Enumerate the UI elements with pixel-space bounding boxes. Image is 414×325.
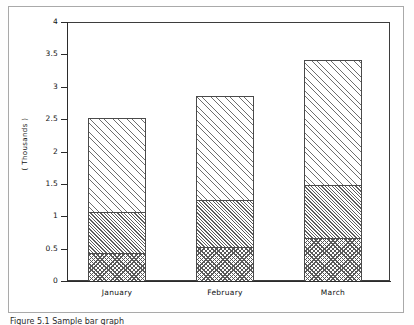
bar-segment-series2 (304, 185, 362, 238)
bar-segment-series3 (88, 118, 146, 213)
bar-chart-figure: 0 0.5 1 1.5 2 2.5 3 3.5 4 ( Thousands ) (0, 0, 414, 325)
y-axis-title: ( Thousands ) (21, 99, 29, 189)
y-tick-mark (61, 281, 67, 282)
y-tick-label: 1.5 (45, 180, 58, 188)
bar-segment-series1 (196, 247, 254, 281)
y-tick-mark (61, 119, 67, 120)
bar-segment-series2 (196, 200, 254, 247)
figure-caption: Figure 5.1 Sample bar graph (10, 317, 124, 325)
y-tick-label: 1 (53, 212, 58, 220)
bar-segment-series1 (88, 253, 146, 281)
y-tick-mark (61, 249, 67, 250)
y-tick-label: 3.5 (45, 50, 58, 58)
y-tick-mark (61, 184, 67, 185)
bar-march (304, 60, 362, 281)
bar-january (88, 118, 146, 281)
y-axis-line (67, 22, 68, 282)
x-axis-label-february: February (196, 288, 254, 297)
y-tick-label: 3 (53, 83, 58, 91)
y-tick-label: 4 (53, 18, 58, 26)
y-tick-label: 0 (53, 277, 58, 285)
bar-segment-series3 (304, 60, 362, 185)
y-tick-label: 2.5 (45, 115, 58, 123)
bar-february (196, 96, 254, 281)
x-axis-label-march: March (304, 288, 362, 297)
y-tick-label: 0.5 (45, 245, 58, 253)
bar-segment-series3 (196, 96, 254, 200)
y-tick-mark (61, 22, 67, 23)
y-tick-mark (61, 152, 67, 153)
y-tick-label: 2 (53, 148, 58, 156)
bar-segment-series2 (88, 212, 146, 253)
y-tick-mark (61, 54, 67, 55)
x-axis-line (67, 281, 391, 282)
bar-segment-series1 (304, 238, 362, 281)
y-tick-mark (61, 87, 67, 88)
screenshot-page: 0 0.5 1 1.5 2 2.5 3 3.5 4 ( Thousands ) (0, 0, 414, 325)
y-tick-mark (61, 216, 67, 217)
x-axis-label-january: January (88, 288, 146, 297)
